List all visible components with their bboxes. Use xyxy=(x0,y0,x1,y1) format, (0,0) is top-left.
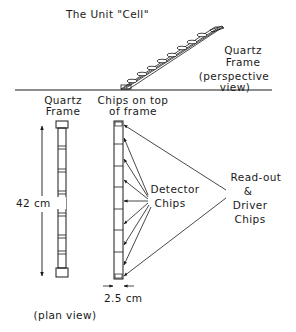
perspective-label-1: Quartz xyxy=(216,44,270,56)
plan-view-label: (plan view) xyxy=(30,309,100,321)
length-label: 42 cm xyxy=(16,197,66,209)
detector-label-1: Detector xyxy=(150,183,200,195)
diagram-title: The Unit "Cell" xyxy=(66,8,149,20)
plan-chips-column xyxy=(114,121,123,279)
perspective-label-2: Frame xyxy=(216,56,270,68)
readout-label-3: Driver xyxy=(228,199,272,211)
chips-label-2: of frame xyxy=(97,105,169,117)
readout-label-4: Chips xyxy=(228,213,272,225)
frame-label-2: Frame xyxy=(40,105,86,117)
perspective-label-4: view) xyxy=(215,81,255,93)
width-label: 2.5 cm xyxy=(104,292,144,304)
detector-label-2: Chips xyxy=(150,197,190,209)
readout-label-2: & xyxy=(236,185,260,197)
readout-label-1: Read-out xyxy=(228,171,284,183)
detector-arrows xyxy=(124,138,151,265)
